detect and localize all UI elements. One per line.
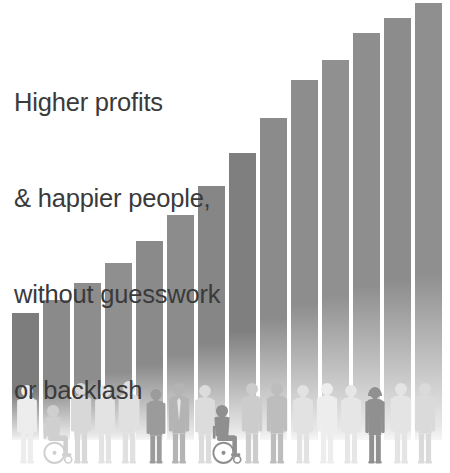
headline-line-3: without guesswork <box>14 278 220 310</box>
headline-line-2: & happier people, <box>14 182 220 214</box>
standing-person-8 <box>267 383 287 463</box>
promotional-graphic: Higher profits & happier people, without… <box>0 0 450 473</box>
headline-line-4: or backlash <box>14 374 220 406</box>
headline-line-1: Higher profits <box>14 86 220 118</box>
hoodie-person-1 <box>365 387 384 463</box>
standing-person-9 <box>293 385 313 463</box>
standing-person-13 <box>415 383 435 463</box>
standing-person-12 <box>391 383 411 463</box>
standing-person-11 <box>341 385 361 463</box>
standing-person-7 <box>242 383 262 463</box>
standing-person-10 <box>317 383 337 463</box>
headline: Higher profits & happier people, without… <box>14 22 220 470</box>
